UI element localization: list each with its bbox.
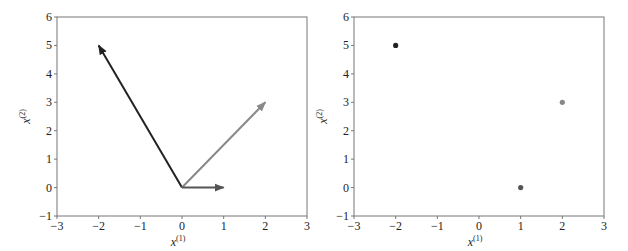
y-tick-label: 3 [46, 95, 52, 109]
vector-arrow [182, 102, 265, 187]
scatter-plot: −3−2−10123−10123456x(1)x(2) [315, 10, 607, 249]
x-tick-label: 1 [518, 219, 524, 233]
y-tick-label: 6 [46, 10, 52, 24]
x-tick-label: 2 [559, 219, 565, 233]
y-tick-label: 5 [343, 38, 349, 52]
y-axis-ticks: −10123456 [39, 10, 57, 223]
y-axis-ticks: −10123456 [336, 10, 354, 223]
y-tick-label: 2 [46, 124, 52, 138]
y-tick-label: −1 [39, 209, 52, 223]
figure: −3−2−10123−10123456x(1)x(2)−3−2−10123−10… [0, 0, 628, 251]
x-tick-label: −3 [51, 219, 64, 233]
y-tick-label: 0 [46, 181, 52, 195]
x-tick-label: −1 [134, 219, 147, 233]
y-axis-label: x(2) [315, 109, 330, 125]
y-tick-label: 4 [343, 67, 349, 81]
x-tick-label: −3 [348, 219, 361, 233]
x-axis-label: x(1) [467, 234, 483, 249]
x-axis-ticks: −3−2−10123 [348, 216, 607, 233]
y-tick-label: 4 [46, 67, 52, 81]
x-tick-label: −2 [389, 219, 402, 233]
x-tick-label: 0 [179, 219, 185, 233]
data-point [393, 43, 398, 48]
x-tick-label: 0 [476, 219, 482, 233]
vector-plot: −3−2−10123−10123456x(1)x(2) [18, 10, 310, 249]
vector-arrow [99, 45, 182, 187]
x-tick-label: 3 [304, 219, 310, 233]
y-tick-label: 5 [46, 38, 52, 52]
y-tick-label: −1 [336, 209, 349, 223]
y-tick-label: 1 [46, 152, 52, 166]
y-tick-label: 2 [343, 124, 349, 138]
x-axis-label: x(1) [170, 234, 186, 249]
x-tick-label: 2 [262, 219, 268, 233]
y-tick-label: 1 [343, 152, 349, 166]
y-tick-label: 6 [343, 10, 349, 24]
y-axis-label: x(2) [18, 109, 33, 125]
x-tick-label: −2 [92, 219, 105, 233]
x-tick-label: 1 [221, 219, 227, 233]
x-axis-ticks: −3−2−10123 [51, 216, 310, 233]
x-tick-label: −1 [431, 219, 444, 233]
y-tick-label: 3 [343, 95, 349, 109]
axes-frame [354, 17, 604, 216]
data-point [560, 100, 565, 105]
y-tick-label: 0 [343, 181, 349, 195]
x-tick-label: 3 [601, 219, 607, 233]
data-point [518, 185, 523, 190]
